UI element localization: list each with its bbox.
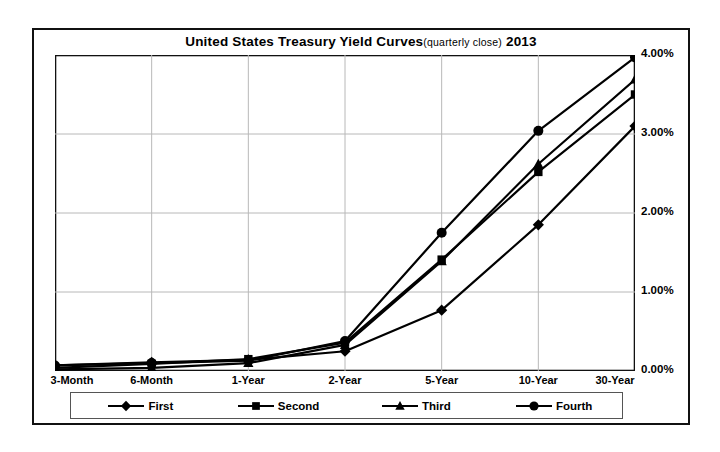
chart-legend: FirstSecondThirdFourth bbox=[70, 392, 623, 419]
legend-label: Fourth bbox=[556, 400, 592, 412]
chart-title-subtitle: (quarterly close) bbox=[423, 36, 502, 48]
data-point-marker-square bbox=[534, 168, 542, 176]
y-axis-tick-label: 4.00% bbox=[641, 47, 674, 59]
chart-title-main: United States Treasury Yield Curves bbox=[185, 34, 423, 49]
chart-plot-svg bbox=[55, 55, 635, 371]
x-axis-tick-label: 5-Year bbox=[425, 374, 458, 386]
x-axis-tick-label: 2-Year bbox=[328, 374, 361, 386]
chart-title: United States Treasury Yield Curves(quar… bbox=[32, 34, 690, 49]
data-point-marker-circle bbox=[533, 126, 543, 136]
y-axis-tick-label: 3.00% bbox=[641, 126, 674, 138]
y-axis-tick-label: 0.00% bbox=[641, 363, 674, 375]
x-axis-tick-label: 6-Month bbox=[130, 374, 173, 386]
data-point-marker-square bbox=[252, 402, 260, 410]
legend-item-second[interactable]: Second bbox=[209, 399, 347, 413]
chart-title-year: 2013 bbox=[506, 34, 537, 49]
chart-container: United States Treasury Yield Curves(quar… bbox=[0, 0, 720, 452]
y-axis-tick-label: 2.00% bbox=[641, 205, 674, 217]
legend-label: Third bbox=[422, 400, 451, 412]
data-point-marker-circle bbox=[340, 336, 350, 346]
plot-area bbox=[55, 55, 635, 371]
legend-item-first[interactable]: First bbox=[71, 399, 209, 413]
data-point-marker-diamond bbox=[121, 400, 131, 410]
data-point-marker-circle bbox=[529, 401, 538, 410]
data-point-marker-circle bbox=[243, 356, 253, 366]
legend-label: First bbox=[148, 400, 173, 412]
x-axis-tick-label: 1-Year bbox=[232, 374, 265, 386]
legend-item-fourth[interactable]: Fourth bbox=[484, 399, 622, 413]
x-axis-tick-label: 10-Year bbox=[519, 374, 558, 386]
legend-marker-circle bbox=[514, 399, 554, 413]
data-point-marker-circle bbox=[437, 228, 447, 238]
x-axis-tick-label: 30-Year bbox=[595, 374, 634, 386]
legend-item-third[interactable]: Third bbox=[347, 399, 485, 413]
y-axis-tick-label: 1.00% bbox=[641, 284, 674, 296]
legend-label: Second bbox=[278, 400, 320, 412]
x-axis-tick-label: 3-Month bbox=[51, 374, 94, 386]
data-point-marker-square bbox=[631, 90, 635, 98]
data-point-marker-circle bbox=[147, 358, 157, 368]
legend-marker-diamond bbox=[106, 399, 146, 413]
legend-marker-triangle bbox=[380, 399, 420, 413]
legend-marker-square bbox=[236, 399, 276, 413]
